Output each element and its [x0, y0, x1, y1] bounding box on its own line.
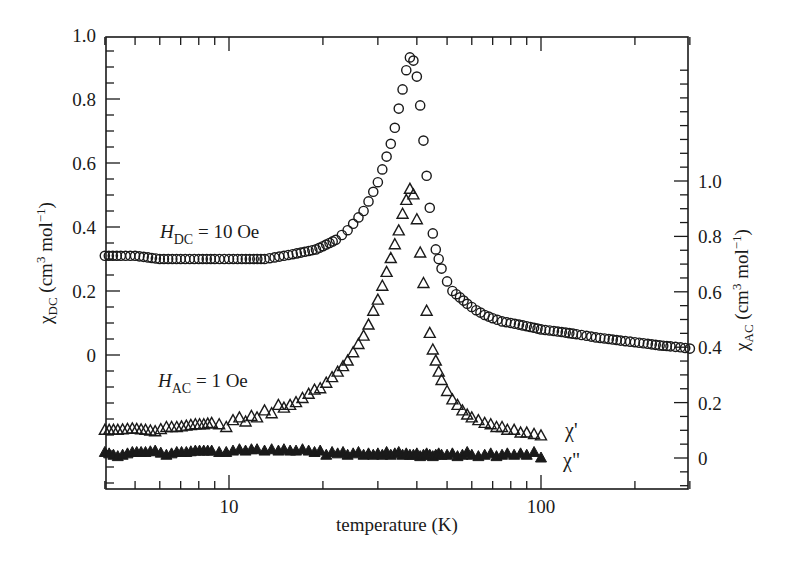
data-point [418, 277, 429, 287]
y-right-tick-label: 0.8 [698, 226, 722, 247]
legend-chi-double-prime: χ" [562, 449, 580, 472]
data-point [354, 213, 363, 222]
y-right-tick-label: 0 [698, 448, 708, 469]
y-left-tick-label: 1.0 [72, 25, 96, 46]
annotation-hac: HAC = 1 Oe [157, 370, 248, 396]
data-point [385, 253, 396, 263]
data-point [369, 187, 378, 196]
data-point [364, 197, 373, 206]
data-point [421, 305, 432, 315]
data-point [221, 422, 232, 432]
x-tick-label: 100 [527, 496, 556, 517]
data-point [416, 101, 425, 110]
y-left-tick-label: 0.8 [72, 89, 96, 110]
data-point [398, 85, 407, 94]
y-axis-left-label: χDC (cm3 mol−1) [33, 202, 60, 325]
data-point [437, 264, 446, 273]
data-point [397, 208, 408, 218]
data-point [412, 72, 421, 81]
data-point [425, 203, 434, 212]
data-point [430, 355, 441, 365]
y-right-tick-label: 0.4 [698, 337, 722, 358]
series-open-circle [100, 53, 694, 353]
data-point [394, 104, 403, 113]
data-point [402, 66, 411, 75]
data-point [377, 280, 388, 290]
data-point [381, 266, 392, 276]
data-point [419, 136, 428, 145]
data-point [434, 254, 443, 263]
data-point [378, 165, 387, 174]
y-right-tick-label: 0.6 [698, 282, 722, 303]
y-right-tick-label: 0.2 [698, 393, 722, 414]
data-point [349, 219, 358, 228]
data-point [363, 319, 374, 329]
data-point [337, 230, 346, 239]
data-point [428, 229, 437, 238]
y-left-tick-label: 0.6 [72, 153, 96, 174]
data-point [382, 152, 391, 161]
y-left-tick-label: 0 [87, 345, 97, 366]
data-point [359, 206, 368, 215]
y-left-tick-label: 0.4 [72, 217, 96, 238]
x-axis-label: temperature (K) [336, 514, 458, 536]
y-right-tick-label: 1.0 [698, 171, 722, 192]
data-point [389, 239, 400, 249]
data-point [415, 247, 426, 257]
data-point [373, 178, 382, 187]
axis-ticks: 101001.00.80.60.40.201.00.80.60.40.20 [72, 25, 722, 517]
data-point [431, 245, 440, 254]
x-tick-label: 10 [220, 496, 239, 517]
data-point [372, 294, 383, 304]
data-point [433, 366, 444, 376]
data-point [411, 214, 422, 224]
data-point [393, 225, 404, 235]
data-point [427, 344, 438, 354]
series-filled-triangle [99, 444, 546, 462]
data-point [422, 171, 431, 180]
legend-chi-prime: χ' [564, 419, 577, 442]
data-point [368, 305, 379, 315]
annotation-hdc: HDC = 10 Oe [159, 221, 259, 247]
data-point [529, 446, 540, 456]
y-axis-right-label: χAC (cm3 mol−1) [729, 229, 756, 352]
data-point [442, 277, 451, 286]
data-point [358, 330, 369, 340]
y-left-tick-label: 0.2 [72, 281, 96, 302]
data-point [442, 386, 453, 396]
data-layer [99, 53, 694, 462]
chart: 101001.00.80.60.40.201.00.80.60.40.20 te… [0, 0, 789, 562]
data-point [390, 123, 399, 132]
data-point [386, 139, 395, 148]
data-point [424, 327, 435, 337]
